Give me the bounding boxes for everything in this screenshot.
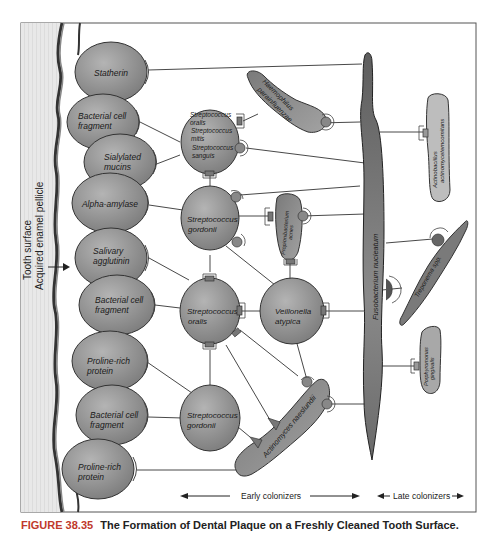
svg-text:mucins: mucins (104, 162, 132, 172)
figure-caption: FIGURE 38.35 The Formation of Dental Pla… (21, 519, 459, 531)
svg-text:fragment: fragment (78, 121, 112, 131)
tooth-surface-label: Tooth surface (22, 220, 33, 280)
receptor-statherin: Statherin (75, 42, 147, 102)
svg-text:Bacterial cell: Bacterial cell (90, 410, 139, 420)
svg-text:Proline-rich: Proline-rich (87, 356, 130, 366)
svg-text:gordonii: gordonii (187, 421, 216, 430)
svg-text:atypica: atypica (275, 317, 301, 326)
svg-text:Fusobacterium nucleatum: Fusobacterium nucleatum (371, 234, 380, 320)
plaque-formation-diagram: Tooth surface Acquired enamel pellicle (0, 0, 495, 536)
svg-text:Bacterial cell: Bacterial cell (95, 295, 144, 305)
svg-text:Streptococcus: Streptococcus (187, 411, 238, 420)
svg-text:fragment: fragment (95, 305, 129, 315)
svg-text:fragment: fragment (90, 420, 124, 430)
svg-text:Actinobacillus: Actinobacillus (432, 151, 438, 189)
svg-text:Late colonizers: Late colonizers (393, 491, 450, 501)
svg-text:gordonii: gordonii (188, 225, 217, 234)
receptor-proline-rich-1: Proline-rich protein (72, 331, 148, 391)
strep-gordonii-1: Streptococcus gordonii (181, 186, 245, 250)
svg-text:Streptococcus: Streptococcus (190, 111, 232, 119)
svg-text:gingivalis: gingivalis (429, 357, 435, 380)
strep-gordonii-2: Streptococcus gordonii (180, 385, 240, 451)
figure-number: FIGURE 38.35 (21, 519, 93, 531)
svg-text:Streptococcus: Streptococcus (187, 307, 238, 316)
svg-text:Statherin: Statherin (94, 68, 128, 78)
svg-text:Salivary: Salivary (93, 246, 124, 256)
svg-text:Early colonizers: Early colonizers (241, 491, 301, 501)
svg-text:sanguis: sanguis (192, 152, 215, 160)
svg-text:Alpha-amylase: Alpha-amylase (81, 199, 138, 209)
receptor-proline-rich-2: Proline-rich protein (62, 439, 134, 499)
svg-text:Bacterial cell: Bacterial cell (78, 111, 127, 121)
receptor-bacterial-fragment-2: Bacterial cell fragment (79, 275, 155, 335)
svg-text:Streptococcus: Streptococcus (192, 144, 234, 152)
svg-text:protein: protein (77, 472, 104, 482)
svg-text:Veillonella: Veillonella (275, 307, 312, 316)
svg-text:Streptococcus: Streptococcus (191, 127, 233, 135)
svg-text:Sialylated: Sialylated (104, 152, 141, 162)
svg-text:mitis: mitis (191, 135, 205, 142)
pellicle-label: Acquired enamel pellicle (34, 181, 45, 290)
svg-text:oralis: oralis (190, 119, 206, 126)
svg-text:protein: protein (86, 366, 113, 376)
svg-text:Proline-rich: Proline-rich (78, 462, 121, 472)
receptor-alpha-amylase: Alpha-amylase (72, 173, 148, 233)
svg-text:Streptococcus: Streptococcus (187, 215, 238, 224)
receptor-bacterial-fragment-3: Bacterial cell fragment (76, 385, 148, 445)
svg-text:actinomycetemcomitans: actinomycetemcomitans (439, 119, 445, 183)
svg-text:agglutinin: agglutinin (93, 256, 130, 266)
figure-title: The Formation of Dental Plaque on a Fres… (100, 519, 459, 531)
svg-text:oralis: oralis (188, 317, 207, 326)
